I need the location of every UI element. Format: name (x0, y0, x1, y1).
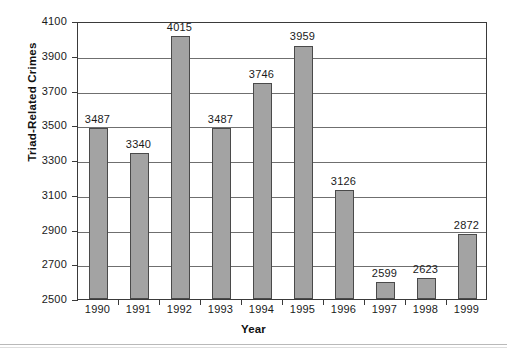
bar (253, 83, 272, 299)
bar (130, 153, 149, 299)
x-tick-label: 1993 (198, 303, 244, 315)
y-tick-label: 3100 (5, 189, 67, 201)
bar-value-label: 2872 (439, 219, 495, 231)
x-tick-mark (118, 300, 119, 305)
x-tick-label: 1998 (403, 303, 449, 315)
x-tick-label: 1995 (280, 303, 326, 315)
y-tick-label: 3500 (5, 119, 67, 131)
bar-value-label: 3746 (234, 68, 290, 80)
x-axis-title: Year (0, 323, 507, 335)
page-divider-rule (0, 344, 507, 345)
gridline (78, 93, 486, 94)
y-tick-label: 4100 (5, 15, 67, 27)
x-tick-mark (446, 300, 447, 305)
y-tick-mark (72, 300, 78, 301)
x-tick-label: 1997 (362, 303, 408, 315)
gridline (78, 58, 486, 59)
y-tick-label: 2900 (5, 224, 67, 236)
bar-chart-figure: Triad-Related Crimes 2500270029003100330… (0, 0, 507, 355)
bar (294, 46, 313, 300)
bar (212, 128, 231, 299)
x-tick-mark (323, 300, 324, 305)
y-tick-label: 3300 (5, 154, 67, 166)
y-tick-label: 2500 (5, 293, 67, 305)
x-tick-mark (282, 300, 283, 305)
x-tick-mark (159, 300, 160, 305)
page-divider-rule-secondary (0, 347, 507, 348)
x-tick-label: 1999 (444, 303, 490, 315)
bar-value-label: 3487 (70, 113, 126, 125)
y-tick-label: 2700 (5, 258, 67, 270)
bar (458, 234, 477, 299)
bar-value-label: 2623 (398, 263, 454, 275)
gridline (78, 127, 486, 128)
x-tick-mark (241, 300, 242, 305)
bar (89, 128, 108, 299)
y-tick-label: 3700 (5, 85, 67, 97)
x-tick-label: 1991 (116, 303, 162, 315)
plot-area (77, 22, 487, 300)
x-tick-mark (405, 300, 406, 305)
bar (376, 282, 395, 299)
x-tick-label: 1992 (157, 303, 203, 315)
bar-value-label: 3340 (111, 138, 167, 150)
x-tick-mark (200, 300, 201, 305)
bar (335, 190, 354, 299)
bar (171, 36, 190, 299)
bar (417, 278, 436, 299)
x-tick-label: 1994 (239, 303, 285, 315)
x-tick-label: 1996 (321, 303, 367, 315)
x-tick-label: 1990 (75, 303, 121, 315)
bar-value-label: 3959 (275, 30, 331, 42)
bar-value-label: 4015 (152, 21, 208, 33)
bar-value-label: 3487 (193, 113, 249, 125)
y-tick-label: 3900 (5, 50, 67, 62)
bar-value-label: 3126 (316, 175, 372, 187)
x-tick-mark (364, 300, 365, 305)
